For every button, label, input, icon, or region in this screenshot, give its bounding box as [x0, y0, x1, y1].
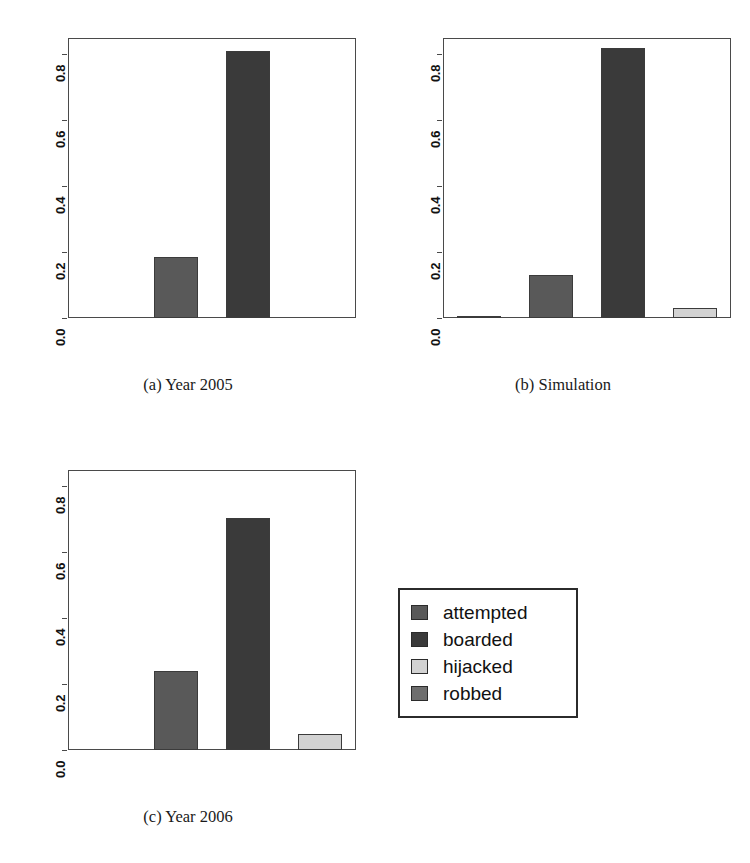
plot-frame [68, 38, 356, 318]
bar-robbed [457, 316, 502, 318]
legend-label-attempted: attempted [443, 603, 528, 622]
legend-item: hijacked [411, 653, 563, 680]
y-axis-tick-label: 0.0 [53, 318, 68, 358]
y-axis-tick-label: 0.4 [428, 186, 443, 226]
plot-frame [68, 470, 356, 750]
y-axis-tick-label: 0.2 [53, 684, 68, 724]
y-axis-tick-label: 0.6 [53, 120, 68, 160]
chart-panel-a: 0.00.20.40.60.8 (a) Year 2005 [18, 30, 358, 390]
bar-attempted [154, 671, 199, 750]
bar-attempted [529, 275, 574, 318]
bar-boarded [226, 518, 271, 750]
y-axis-tick-label: 0.2 [53, 252, 68, 292]
y-axis-tick-label: 0.0 [428, 318, 443, 358]
bar-hijacked [673, 308, 718, 318]
legend-swatch-boarded [411, 632, 428, 647]
y-axis-tick-label: 0.8 [428, 54, 443, 94]
chart-panel-c: 0.00.20.40.60.8 (c) Year 2006 [18, 462, 358, 822]
legend-label-boarded: boarded [443, 630, 513, 649]
chart-legend: attempted boarded hijacked robbed [398, 588, 578, 718]
y-axis-tick-label: 0.0 [53, 750, 68, 790]
legend-label-robbed: robbed [443, 684, 502, 703]
figure-panel-grid: 0.00.20.40.60.8 (a) Year 2005 0.00.20.40… [0, 0, 750, 863]
legend-label-hijacked: hijacked [443, 657, 513, 676]
legend-swatch-attempted [411, 605, 428, 620]
legend-swatch-robbed [411, 686, 428, 701]
bar-attempted [154, 257, 199, 318]
bar-boarded [226, 51, 271, 318]
y-axis-tick-label: 0.2 [428, 252, 443, 292]
panel-caption-b: (b) Simulation [393, 375, 733, 395]
y-axis-tick-label: 0.6 [53, 552, 68, 592]
y-axis-tick-label: 0.4 [53, 186, 68, 226]
legend-swatch-hijacked [411, 659, 428, 674]
plot-area-a: 0.00.20.40.60.8 [18, 30, 358, 320]
y-axis-tick-label: 0.8 [53, 54, 68, 94]
plot-area-b: 0.00.20.40.60.8 [393, 30, 733, 320]
y-axis-tick-label: 0.8 [53, 486, 68, 526]
legend-item: robbed [411, 680, 563, 707]
y-axis-tick-label: 0.6 [428, 120, 443, 160]
plot-frame [443, 38, 731, 318]
legend-item: attempted [411, 599, 563, 626]
panel-caption-a: (a) Year 2005 [18, 375, 358, 395]
bar-boarded [601, 48, 646, 318]
chart-panel-b: 0.00.20.40.60.8 (b) Simulation [393, 30, 733, 390]
legend-item: boarded [411, 626, 563, 653]
y-axis-tick-label: 0.4 [53, 618, 68, 658]
bar-hijacked [298, 734, 343, 750]
panel-caption-c: (c) Year 2006 [18, 807, 358, 827]
plot-area-c: 0.00.20.40.60.8 [18, 462, 358, 752]
